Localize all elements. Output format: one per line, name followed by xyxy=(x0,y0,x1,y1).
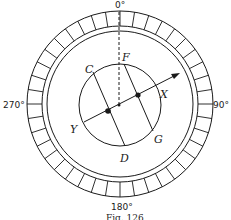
ring-division-tick xyxy=(45,150,57,159)
label-d: D xyxy=(119,152,129,165)
ring-division-tick xyxy=(194,75,208,80)
ring-division-tick xyxy=(28,116,43,118)
ring-division-tick xyxy=(65,167,74,179)
ring-division-tick xyxy=(155,173,162,186)
label-g: G xyxy=(154,133,163,146)
ring-division-tick xyxy=(197,116,212,118)
label-90-deg: 90° xyxy=(213,100,229,110)
ring-division-tick xyxy=(78,173,85,186)
ring-division-tick xyxy=(132,12,134,27)
ring-division-tick xyxy=(144,16,149,30)
ring-division-tick xyxy=(144,178,149,192)
ring-division-tick xyxy=(189,139,202,146)
ring-division-tick xyxy=(197,89,212,91)
ring-division-tick xyxy=(54,38,65,49)
ring-division-tick xyxy=(155,21,162,34)
ring-division-tick xyxy=(37,62,50,69)
ring-division-tick xyxy=(183,49,195,58)
ring-division-tick xyxy=(65,29,74,41)
label-y: Y xyxy=(70,123,79,136)
ring-division-tick xyxy=(45,49,57,58)
ring-division-tick xyxy=(166,167,175,179)
label-c: C xyxy=(85,63,94,76)
ring-division-tick xyxy=(91,178,96,192)
ring-division-tick xyxy=(105,12,107,27)
center-point xyxy=(118,104,121,107)
label-270-deg: 270° xyxy=(3,100,25,110)
label-x: X xyxy=(159,88,169,101)
arrow-head-icon xyxy=(171,73,180,79)
ring-division-tick xyxy=(132,181,134,196)
ring-division-tick xyxy=(91,16,96,30)
ring-division-tick xyxy=(183,150,195,159)
ring-division-tick xyxy=(166,29,175,41)
label-180-deg: 180° xyxy=(111,202,133,212)
ring-division-tick xyxy=(194,128,208,133)
ring-division-tick xyxy=(189,62,202,69)
ring-division-tick xyxy=(28,89,43,91)
ring-division-tick xyxy=(32,128,46,133)
ring-division-tick xyxy=(32,75,46,80)
label-f: F xyxy=(121,51,130,64)
ring-division-tick xyxy=(54,159,65,170)
label-0-deg: 0° xyxy=(115,0,125,10)
dial-diagram: 0° 90° 180° 270° C F X Y G D Fig. 126 xyxy=(0,0,231,220)
ring-division-tick xyxy=(78,21,85,34)
point-x-side xyxy=(135,92,140,97)
point-y-side xyxy=(105,108,111,114)
ring-division-tick xyxy=(175,38,186,49)
ring-division-tick xyxy=(37,139,50,146)
ring-division-tick xyxy=(105,181,107,196)
ring-division-tick xyxy=(175,159,186,170)
figure-caption: Fig. 126 xyxy=(106,213,144,220)
